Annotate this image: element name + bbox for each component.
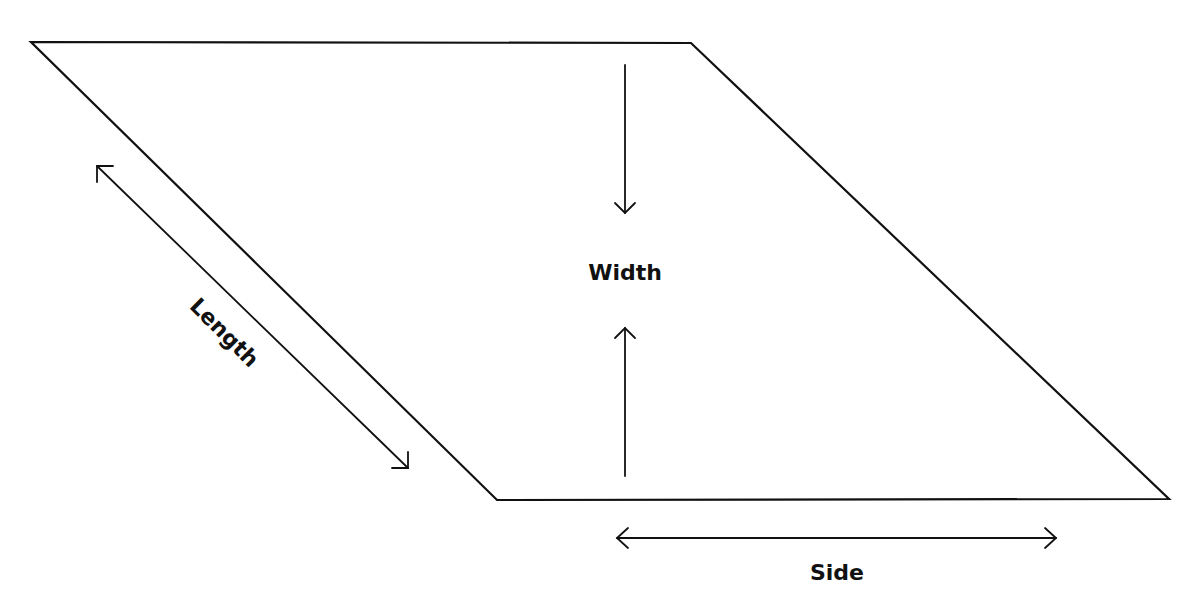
length-arrow-shaft bbox=[97, 166, 408, 468]
length-arrow bbox=[97, 166, 408, 468]
width-arrow-down bbox=[615, 65, 635, 213]
side-arrow bbox=[617, 528, 1056, 548]
side-label: Side bbox=[810, 562, 864, 584]
width-label: Width bbox=[588, 262, 662, 284]
width-arrow-up bbox=[615, 328, 635, 476]
parallelogram-diagram bbox=[0, 0, 1203, 615]
